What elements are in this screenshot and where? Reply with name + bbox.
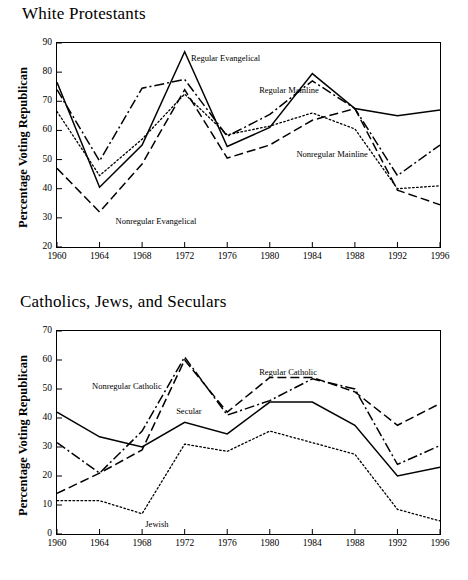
x-axis-tick-label: 1964: [80, 538, 120, 548]
y-axis-tick-label: 0: [26, 528, 52, 538]
y-axis-tick-label: 40: [26, 412, 52, 422]
x-axis-tick-label: 1984: [292, 251, 332, 261]
y-axis-tick-label: 30: [26, 212, 52, 222]
series-line-regular-catholic: [57, 360, 440, 493]
x-axis-tick-label: 1976: [207, 538, 247, 548]
x-axis-tick-label: 1980: [250, 538, 290, 548]
x-axis-tick-label: 1996: [420, 251, 460, 261]
series-line-nonregular-mainline: [57, 94, 440, 189]
plot-area-white-protestants: [56, 42, 441, 248]
y-axis-tick-label: 10: [26, 499, 52, 509]
x-axis-tick-label: 1972: [165, 251, 205, 261]
plot-area-catholics-jews-seculars: [56, 330, 441, 535]
chart-panel-white-protestants: White Protestants Percentage Voting Repu…: [0, 0, 468, 290]
page-title-white-protestants: White Protestants: [22, 4, 146, 24]
y-axis-tick-label: 40: [26, 183, 52, 193]
x-axis-tick-label: 1980: [250, 251, 290, 261]
series-line-nonregular-catholic: [57, 357, 440, 473]
series-line-jewish: [57, 431, 440, 521]
series-label-secular: Secular: [176, 406, 202, 416]
series-label-nonregular-evangelical: Nonregular Evangelical: [116, 216, 197, 226]
x-axis-tick-label: 1992: [377, 538, 417, 548]
x-axis-tick-label: 1976: [207, 251, 247, 261]
series-label-regular-mainline: Regular Mainline: [259, 85, 319, 95]
chart-canvas: [57, 331, 440, 534]
x-axis-tick-label: 1988: [335, 538, 375, 548]
x-axis-tick-label: 1960: [37, 538, 77, 548]
series-label-jewish: Jewish: [145, 519, 168, 529]
page-title-catholics-jews-seculars: Catholics, Jews, and Seculars: [20, 292, 226, 312]
y-axis-label-top: Percentage Voting Republican: [16, 67, 31, 228]
chart-canvas: [57, 43, 440, 247]
y-axis-tick-label: 90: [26, 37, 52, 47]
series-line-nonregular-evangelical: [57, 90, 440, 212]
x-axis-tick-label: 1964: [80, 251, 120, 261]
y-axis-tick-label: 50: [26, 154, 52, 164]
x-axis-tick-label: 1996: [420, 538, 460, 548]
x-axis-tick-label: 1984: [292, 538, 332, 548]
figure-caption: [0, 566, 468, 580]
x-axis-tick-label: 1968: [122, 251, 162, 261]
chart-panel-catholics-jews-seculars: Catholics, Jews, and Seculars Percentage…: [0, 290, 468, 580]
y-axis-tick-label: 50: [26, 383, 52, 393]
series-label-nonregular-mainline: Nonregular Mainline: [296, 149, 368, 159]
series-label-regular-evangelical: Regular Evangelical: [191, 53, 260, 63]
series-label-nonregular-catholic: Nonregular Catholic: [92, 381, 162, 391]
y-axis-tick-label: 80: [26, 66, 52, 76]
y-axis-label-bottom: Percentage Voting Republican: [16, 355, 31, 516]
x-axis-tick-label: 1988: [335, 251, 375, 261]
y-axis-tick-label: 60: [26, 124, 52, 134]
y-axis-tick-label: 30: [26, 441, 52, 451]
y-axis-tick-label: 20: [26, 241, 52, 251]
y-axis-tick-label: 20: [26, 470, 52, 480]
y-axis-tick-label: 70: [26, 95, 52, 105]
series-label-regular-catholic: Regular Catholic: [259, 367, 317, 377]
series-line-regular-evangelical: [57, 52, 440, 188]
x-axis-tick-label: 1968: [122, 538, 162, 548]
y-axis-tick-label: 70: [26, 325, 52, 335]
y-axis-tick-label: 60: [26, 354, 52, 364]
x-axis-tick-label: 1960: [37, 251, 77, 261]
x-axis-tick-label: 1972: [165, 538, 205, 548]
x-axis-tick-label: 1992: [377, 251, 417, 261]
